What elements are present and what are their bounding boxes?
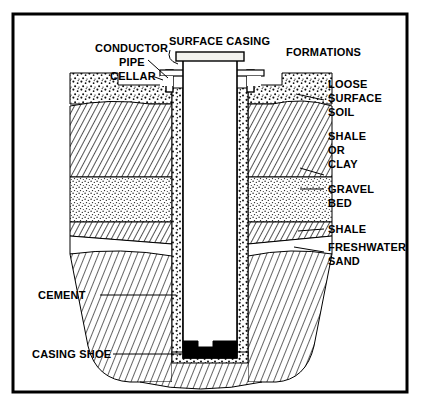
surface-casing [176, 52, 244, 358]
label-loose-surface-soil-line2: SURFACE [328, 92, 382, 104]
label-conductor-pipe-line2: PIPE [119, 56, 145, 68]
label-shale-or-clay-line1: SHALE [328, 130, 366, 142]
label-cement: CEMENT [38, 289, 86, 301]
label-loose-surface-soil-line3: SOIL [328, 106, 355, 118]
label-conductor-pipe-line1: CONDUCTOR [95, 42, 168, 54]
label-surface-casing: SURFACE CASING [169, 35, 270, 47]
diagram-canvas: CONDUCTOR PIPE SURFACE CASING CELLAR FOR… [0, 0, 422, 409]
label-gravel-bed-line1: GRAVEL [328, 183, 374, 195]
label-shale-or-clay-line2: OR [328, 144, 345, 156]
label-gravel-bed-line2: BED [328, 197, 352, 209]
label-loose-surface-soil-line1: LOOSE [328, 78, 368, 90]
label-casing-shoe: CASING SHOE [32, 348, 111, 360]
label-freshwater-sand-line1: FRESHWATER [328, 241, 406, 253]
label-shale-or-clay-line3: CLAY [328, 158, 358, 170]
label-cellar: CELLAR [110, 70, 156, 82]
well-casing-diagram: CONDUCTOR PIPE SURFACE CASING CELLAR FOR… [0, 0, 422, 409]
label-shale: SHALE [328, 223, 366, 235]
label-formations: FORMATIONS [286, 46, 361, 58]
label-freshwater-sand-line2: SAND [328, 255, 360, 267]
